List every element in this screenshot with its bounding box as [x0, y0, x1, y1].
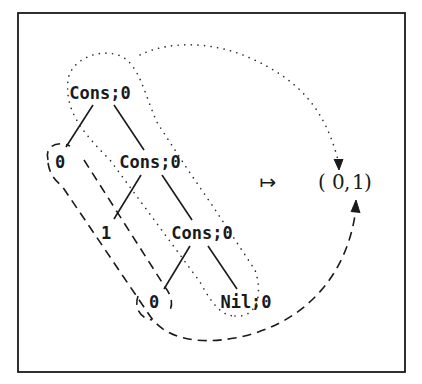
tree-edges — [66, 105, 237, 289]
node-leaf-0-left: 0 — [55, 152, 65, 172]
node-leaf-1: 1 — [101, 223, 111, 243]
node-cons-mid: Cons;0 — [119, 152, 180, 172]
tree-fold-diagram: Cons;0 0 Cons;0 1 Cons;0 0 Nil;0 ↦ ( 0 ,… — [0, 0, 422, 384]
edge-cons-to-0 — [164, 246, 190, 289]
edge-root-to-cons — [114, 105, 144, 150]
result-first: 0 — [332, 170, 345, 194]
result-pair: ( 0 , 1 ) — [318, 170, 372, 194]
node-leaf-0-bottom: 0 — [149, 292, 159, 312]
result-second: 1 — [352, 170, 365, 194]
dotted-arrowhead-icon — [334, 159, 343, 170]
dashed-arrowhead-icon — [351, 200, 360, 213]
node-nil: Nil;0 — [220, 292, 271, 312]
edge-cons-to-nil — [208, 246, 237, 289]
result-close-paren: ) — [364, 170, 372, 194]
edge-cons-to-cons — [162, 175, 192, 220]
result-comma: , — [344, 170, 350, 194]
node-cons-low: Cons;0 — [171, 223, 232, 243]
mapsto-arrow-icon: ↦ — [260, 170, 277, 194]
result-open-paren: ( — [318, 170, 326, 194]
node-root-cons: Cons;0 — [69, 83, 130, 103]
